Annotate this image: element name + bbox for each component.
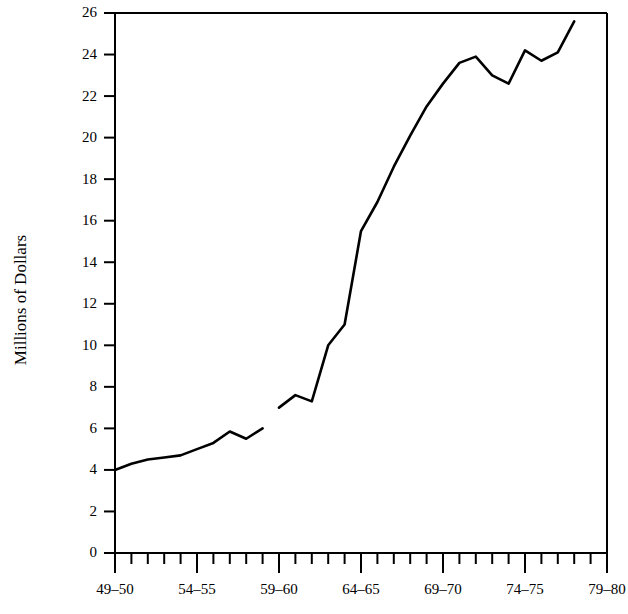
y-tick-label: 10 [82, 337, 97, 353]
x-axis: 49–5054–5559–6064–6569–7074–7579–80 [96, 553, 626, 597]
y-tick-label: 26 [82, 4, 98, 20]
x-tick-label: 79–80 [588, 581, 626, 597]
y-tick-label: 2 [90, 503, 98, 519]
x-tick-label: 49–50 [96, 581, 134, 597]
x-tick-label: 54–55 [178, 581, 216, 597]
y-tick-label: 18 [82, 171, 97, 187]
data-line-segment-early [115, 428, 263, 470]
y-tick-label: 22 [82, 88, 97, 104]
y-tick-label: 4 [90, 461, 98, 477]
x-tick-label: 64–65 [342, 581, 380, 597]
x-tick-label: 74–75 [506, 581, 544, 597]
y-tick-label: 8 [90, 378, 98, 394]
y-axis: 02468101214161820222426 [82, 4, 115, 560]
y-tick-label: 20 [82, 129, 97, 145]
axis-frame [115, 13, 607, 553]
y-axis-title: Millions of Dollars [11, 235, 30, 365]
y-tick-label: 16 [82, 212, 98, 228]
y-tick-label: 6 [90, 420, 98, 436]
y-tick-label: 0 [90, 544, 98, 560]
chart-figure: 02468101214161820222426 49–5054–5559–606… [0, 0, 628, 614]
x-tick-label: 69–70 [424, 581, 462, 597]
y-tick-label: 24 [82, 46, 98, 62]
y-tick-label: 14 [82, 254, 98, 270]
x-tick-label: 59–60 [260, 581, 298, 597]
data-series [115, 21, 574, 470]
y-tick-label: 12 [82, 295, 97, 311]
line-chart: 02468101214161820222426 49–5054–5559–606… [0, 0, 628, 614]
data-line-segment-late [279, 21, 574, 407]
